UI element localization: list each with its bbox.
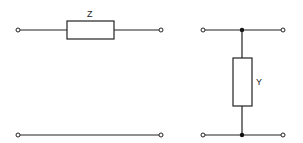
admittance-y-box xyxy=(233,58,252,106)
impedance-z-box xyxy=(67,21,114,39)
label-y: Y xyxy=(256,77,262,87)
shunt-terminal-top-right xyxy=(281,28,285,32)
terminal-bottom-left xyxy=(16,133,20,137)
series-impedance-network: Z xyxy=(16,9,163,137)
two-port-diagram: Z Y xyxy=(0,0,303,143)
shunt-terminal-bottom-right xyxy=(281,133,285,137)
label-z: Z xyxy=(87,9,93,19)
shunt-terminal-top-left xyxy=(201,28,205,32)
shunt-terminal-bottom-left xyxy=(201,133,205,137)
terminal-top-left xyxy=(16,28,20,32)
terminal-bottom-right xyxy=(159,133,163,137)
junction-bottom xyxy=(240,133,244,137)
terminal-top-right xyxy=(159,28,163,32)
shunt-admittance-network: Y xyxy=(201,28,285,137)
